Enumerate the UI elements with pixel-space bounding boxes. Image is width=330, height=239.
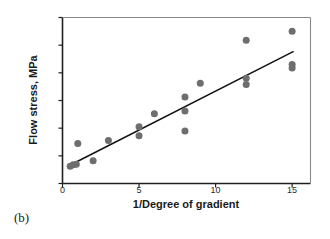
data-point <box>73 161 80 168</box>
x-tick-label: 15 <box>282 186 302 195</box>
data-point <box>181 127 188 134</box>
data-point <box>105 137 112 144</box>
data-point <box>136 132 143 139</box>
x-tick-label: 0 <box>53 186 73 195</box>
trend-line <box>69 51 293 165</box>
data-point <box>243 37 250 44</box>
data-point <box>151 110 158 117</box>
data-point <box>289 28 296 35</box>
data-point <box>243 75 250 82</box>
data-point <box>289 64 296 71</box>
scatter-plot <box>0 0 330 239</box>
data-point <box>197 80 204 87</box>
data-point <box>181 107 188 114</box>
data-point <box>243 81 250 88</box>
data-point <box>90 157 97 164</box>
x-tick-label: 5 <box>129 186 149 195</box>
x-tick-label: 10 <box>206 186 226 195</box>
figure-panel: Flow stress, MPa 1/Degree of gradient (b… <box>0 0 330 239</box>
data-point <box>136 123 143 130</box>
data-point <box>181 94 188 101</box>
data-point <box>74 140 81 147</box>
figure-caption: (b) <box>14 210 29 226</box>
